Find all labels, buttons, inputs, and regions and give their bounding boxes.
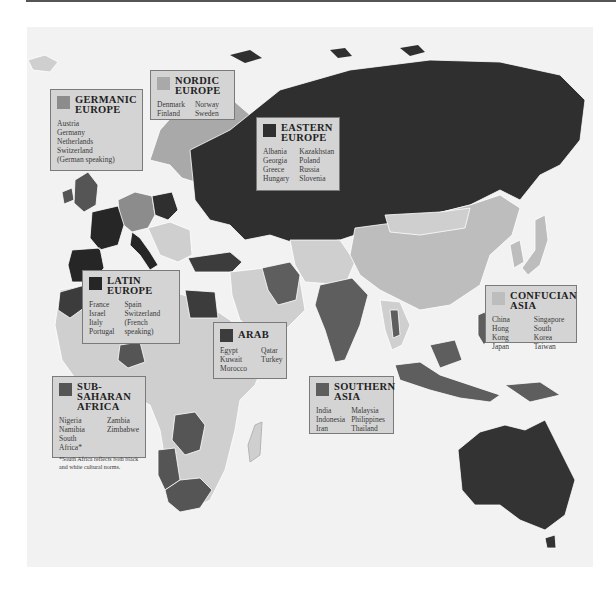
confucian-swatch: [492, 292, 505, 305]
country-label: Hong Kong: [492, 324, 526, 342]
country-label: Netherlands: [57, 137, 115, 146]
country-label: Taiwan: [534, 342, 570, 351]
poland: [152, 192, 178, 220]
madagascar: [248, 422, 262, 462]
japan: [522, 215, 548, 275]
legend-title-line2: AFRICA: [77, 402, 139, 412]
country-label: Italy: [89, 318, 114, 327]
country-label: Namibia: [59, 425, 97, 434]
country-label: Slovenia: [299, 174, 334, 183]
country-label: Thailand: [351, 424, 385, 433]
country-label: Qatar: [261, 346, 282, 355]
legend-title: GERMANIC EUROPE: [75, 95, 137, 115]
country-label: Albania: [263, 147, 289, 156]
legend-title-line2: ASIA: [334, 392, 395, 402]
legend-footnote: *South Africa reflects both black and wh…: [59, 455, 139, 471]
legend-title-line2: EUROPE: [281, 133, 333, 143]
country-label: Greece: [263, 165, 289, 174]
arctic-islands: [230, 45, 425, 63]
country-label: Denmark: [157, 100, 185, 109]
sub-saharan-swatch: [59, 383, 72, 396]
country-label: South Korea: [534, 324, 570, 342]
country-label: Spain: [124, 300, 173, 309]
country-label: France: [89, 300, 114, 309]
country-label: Finland: [157, 109, 185, 118]
legend-title: SUB-SAHARAN AFRICA: [77, 382, 139, 412]
legend-title: LATIN EUROPE: [107, 276, 153, 296]
country-label: Georgia: [263, 156, 289, 165]
legend-title-line2: ASIA: [510, 301, 577, 311]
country-label: Switzerland: [124, 309, 173, 318]
balkans: [148, 222, 192, 262]
iceland: [28, 55, 58, 72]
new-guinea: [505, 382, 560, 402]
eastern-swatch: [263, 124, 276, 137]
country-label: Russia: [299, 165, 334, 174]
legend-title: SOUTHERN ASIA: [334, 382, 395, 402]
country-label: Zambia: [107, 416, 139, 425]
nordic-swatch: [157, 77, 170, 90]
country-label: Kazakhstan: [299, 147, 334, 156]
india: [315, 278, 368, 362]
southern-asia-swatch: [316, 383, 329, 396]
turkey: [188, 252, 242, 272]
malaysia-indonesia: [395, 340, 500, 402]
germanic-swatch: [57, 96, 70, 109]
legend-nordic-europe: NORDIC EUROPE Denmark Finland Norway Swe…: [150, 70, 235, 120]
country-label: (French speaking): [124, 318, 173, 336]
country-label: South Africa*: [59, 434, 97, 452]
legend-eastern-europe: EASTERN EUROPE Albania Georgia Greece Hu…: [256, 117, 340, 191]
country-label: Nigeria: [59, 416, 97, 425]
country-label: (German speaking): [57, 155, 115, 164]
australia: [458, 420, 575, 548]
country-label: Singapore: [534, 315, 570, 324]
country-label: Sweden: [195, 109, 219, 118]
country-label: Japan: [492, 342, 526, 351]
country-label: India: [316, 406, 345, 415]
legend-title-line2: EUROPE: [175, 86, 221, 96]
legend-title-line2: EUROPE: [75, 105, 137, 115]
country-label: Germany: [57, 128, 115, 137]
country-label: Philippines: [351, 415, 385, 424]
legend-title: NORDIC EUROPE: [175, 76, 221, 96]
legend-arab: ARAB Egypt Kuwait Morocco Qatar Turkey: [213, 322, 287, 379]
country-label: Portugal: [89, 327, 114, 336]
country-label: Norway: [195, 100, 219, 109]
legend-title-line2: EUROPE: [107, 286, 153, 296]
legend-southern-asia: SOUTHERN ASIA India Indonesia Iran Malay…: [309, 376, 394, 434]
country-label: Israel: [89, 309, 114, 318]
egypt: [185, 290, 218, 318]
country-label: Indonesia: [316, 415, 345, 424]
arab-swatch: [220, 329, 233, 342]
legend-title: EASTERN EUROPE: [281, 123, 333, 143]
uk-ireland: [62, 172, 98, 212]
country-label: Hungary: [263, 174, 289, 183]
country-label: Austria: [57, 119, 115, 128]
country-label: Egypt: [220, 346, 247, 355]
latin-swatch: [89, 277, 102, 290]
legend-latin-europe: LATIN EUROPE France Israel Italy Portuga…: [82, 270, 180, 344]
country-label: China: [492, 315, 526, 324]
legend-title-line1: SUB-SAHARAN: [77, 382, 139, 402]
legend-title: CONFUCIAN ASIA: [510, 291, 577, 311]
legend-title: ARAB: [238, 330, 269, 340]
country-label: Malaysia: [351, 406, 385, 415]
country-label: Switzerland: [57, 146, 115, 155]
country-label: Poland: [299, 156, 334, 165]
country-label: Turkey: [261, 355, 282, 364]
country-label: Iran: [316, 424, 345, 433]
country-label: Zimbabwe: [107, 425, 139, 434]
legend-germanic-europe: GERMANIC EUROPE Austria Germany Netherla…: [50, 89, 143, 171]
legend-confucian-asia: CONFUCIAN ASIA China Hong Kong Japan Sin…: [485, 285, 577, 343]
country-label: Kuwait: [220, 355, 247, 364]
legend-sub-saharan-africa: SUB-SAHARAN AFRICA Nigeria Namibia South…: [52, 376, 146, 458]
legend-title-line1: ARAB: [238, 330, 269, 340]
country-label: Morocco: [220, 364, 247, 373]
korea: [510, 240, 524, 268]
